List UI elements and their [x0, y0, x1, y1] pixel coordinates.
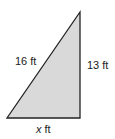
base-unit: ft: [42, 123, 51, 135]
vertical-leg-label: 13 ft: [87, 60, 108, 71]
hypotenuse-label: 16 ft: [15, 56, 36, 67]
base-label: x ft: [36, 124, 51, 135]
